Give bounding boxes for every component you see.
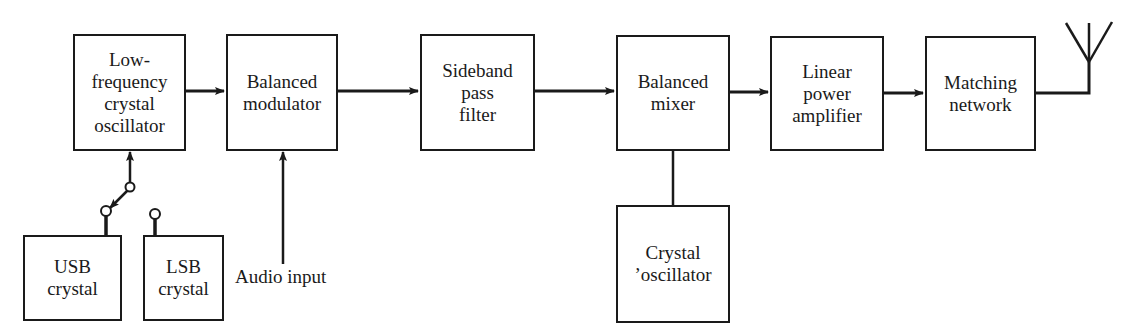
block-low-frequency-crystal-oscillator: Low- frequency crystal oscillator xyxy=(73,34,186,151)
block-label-line: crystal xyxy=(104,93,155,115)
block-linear-power-amplifier: Linear power amplifier xyxy=(770,36,884,151)
block-label-line: frequency xyxy=(92,71,168,93)
block-label-line: crystal xyxy=(158,278,209,300)
block-label-line: Linear xyxy=(802,61,852,83)
lsb-switch-contact xyxy=(150,209,160,219)
block-label-line: Balanced xyxy=(638,71,709,93)
block-label-line: pass xyxy=(461,82,494,104)
block-label-line: Sideband xyxy=(442,60,513,82)
block-lsb-crystal: LSB crystal xyxy=(143,235,224,321)
block-label-line: filter xyxy=(459,104,496,126)
block-sideband-pass-filter: Sideband pass filter xyxy=(420,34,535,151)
switch-pivot-contact xyxy=(126,183,135,192)
feedline-to-antenna xyxy=(1035,62,1089,93)
block-label-line: Crystal xyxy=(646,242,701,264)
block-crystal-oscillator: Crystal ’oscillator xyxy=(616,205,730,323)
block-balanced-modulator: Balanced modulator xyxy=(226,34,338,151)
block-label-line: Matching xyxy=(944,72,1017,94)
usb-switch-contact xyxy=(101,206,111,216)
ssb-transmitter-diagram: Low- frequency crystal oscillator Balanc… xyxy=(0,0,1132,334)
block-usb-crystal: USB crystal xyxy=(23,235,122,321)
block-label-line: amplifier xyxy=(792,105,862,127)
block-label-line: mixer xyxy=(651,93,695,115)
block-label-line: LSB xyxy=(166,256,201,278)
block-label-line: USB xyxy=(54,256,91,278)
block-label-line: Balanced xyxy=(247,71,318,93)
block-label-line: ’oscillator xyxy=(634,264,711,286)
block-label-line: crystal xyxy=(47,278,98,300)
block-balanced-mixer: Balanced mixer xyxy=(616,35,730,151)
switch-arm xyxy=(110,190,128,208)
block-label-line: oscillator xyxy=(94,115,165,137)
block-label-line: modulator xyxy=(243,93,321,115)
block-label-line: network xyxy=(949,94,1011,116)
block-label-line: Low- xyxy=(109,49,150,71)
audio-input-label: Audio input xyxy=(235,266,326,288)
block-matching-network: Matching network xyxy=(925,36,1036,151)
block-label-line: power xyxy=(803,83,850,105)
antenna-icon xyxy=(1066,22,1112,62)
